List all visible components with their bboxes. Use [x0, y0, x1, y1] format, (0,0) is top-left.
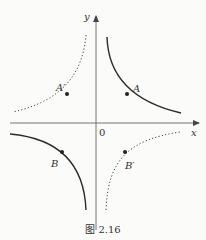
x-axis-label: x [191, 127, 197, 138]
curve-quadrant-3 [10, 134, 86, 210]
origin-label: 0 [99, 127, 105, 138]
label-a: A [132, 83, 140, 94]
y-axis-label: y [83, 11, 90, 22]
curve-quadrant-2 [13, 35, 86, 112]
point-b-prime [123, 150, 127, 154]
point-b [60, 150, 64, 154]
curve-quadrant-4 [106, 132, 180, 210]
label-a-prime: A′ [55, 82, 66, 93]
label-b-prime: B′ [124, 160, 135, 171]
point-a [125, 92, 129, 96]
point-a-prime [65, 92, 69, 96]
figure-caption: 图 2.16 [0, 221, 206, 236]
label-b: B [50, 158, 58, 169]
curve-quadrant-1 [107, 37, 181, 113]
hyperbola-diagram: y x 0 A A′ B B′ [0, 0, 206, 240]
